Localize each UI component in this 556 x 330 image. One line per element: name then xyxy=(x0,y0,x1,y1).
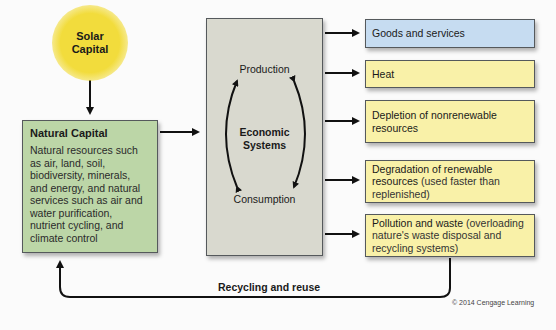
output-goods-and-services: Goods and services xyxy=(365,19,535,48)
output-depletion: Depletion of nonrenewable resources xyxy=(365,100,535,143)
output-main: Goods and services xyxy=(372,27,465,40)
economic-systems-box: Production Economic Systems Consumption xyxy=(206,18,323,256)
natural-capital-box: Natural Capital Natural resources such a… xyxy=(22,120,158,253)
output-main: Heat xyxy=(372,68,394,81)
solar-capital-node: SolarCapital xyxy=(52,5,128,81)
natural-capital-description: Natural resources such as air, land, soi… xyxy=(30,144,150,244)
output-pollution: Pollution and waste (overloading nature'… xyxy=(365,214,535,257)
output-main: Pollution and waste xyxy=(372,217,463,229)
recycling-label: Recycling and reuse xyxy=(218,281,320,293)
solar-line1: Solar xyxy=(76,30,104,42)
output-degradation: Degradation of renewable resources (used… xyxy=(365,160,535,203)
natural-capital-title: Natural Capital xyxy=(30,127,150,139)
solar-line2: Capital xyxy=(72,43,109,55)
cycle-arrows-icon xyxy=(207,19,324,257)
output-heat: Heat xyxy=(365,60,535,88)
output-main: Depletion of nonrenewable resources xyxy=(372,109,528,134)
copyright: © 2014 Cengage Learning xyxy=(452,299,534,306)
